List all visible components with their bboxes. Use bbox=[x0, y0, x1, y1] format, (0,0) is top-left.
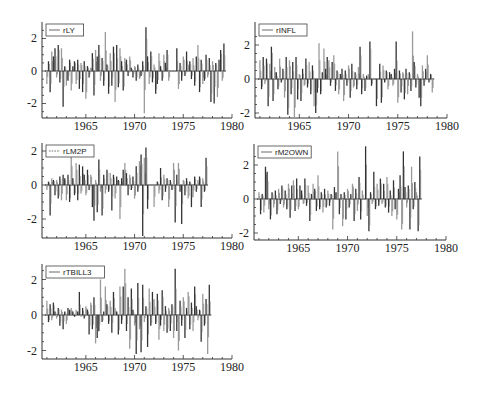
legend: rM2OWN bbox=[258, 146, 311, 158]
y-tick-label: 2 bbox=[31, 273, 37, 287]
x-tick-label: 1975 bbox=[386, 119, 410, 133]
x-tick-label: 1970 bbox=[337, 119, 361, 133]
x-tick-label: 1965 bbox=[287, 119, 311, 133]
legend-label: rLM2P bbox=[63, 147, 87, 156]
legend: rLY bbox=[46, 24, 84, 36]
panel-rtbill3: 20-21965197019751980rTBILL3 bbox=[27, 264, 244, 374]
y-tick-label: -2 bbox=[27, 212, 37, 226]
y-tick-label: 2 bbox=[31, 144, 37, 158]
y-tick-label: -2 bbox=[27, 344, 37, 358]
x-tick-label: 1970 bbox=[123, 239, 147, 253]
legend: rTBILL3 bbox=[46, 266, 104, 278]
y-tick-label: -2 bbox=[27, 96, 37, 110]
x-tick-label: 1975 bbox=[171, 239, 195, 253]
figure: 20-21965197019751980rLY 20-2196519701975… bbox=[0, 0, 486, 395]
panel-rly: 20-21965197019751980rLY bbox=[27, 22, 244, 133]
panel-rlm2p: 20-21965197019751980rLM2P bbox=[27, 143, 244, 253]
panel-rinfl: 20-21965197019751980rINFL bbox=[240, 22, 459, 133]
y-tick-label: 0 bbox=[243, 192, 249, 206]
x-tick-label: 1975 bbox=[171, 119, 195, 133]
legend-label: rTBILL3 bbox=[63, 268, 92, 277]
x-tick-label: 1980 bbox=[434, 241, 458, 255]
x-tick-label: 1965 bbox=[74, 239, 98, 253]
y-tick-label: 2 bbox=[31, 31, 37, 45]
x-tick-label: 1980 bbox=[220, 239, 244, 253]
y-tick-label: 0 bbox=[31, 178, 37, 192]
y-tick-label: 2 bbox=[244, 38, 250, 52]
y-tick-label: 0 bbox=[244, 72, 250, 86]
x-tick-label: 1980 bbox=[435, 119, 459, 133]
x-tick-label: 1975 bbox=[385, 241, 409, 255]
legend: rINFL bbox=[259, 24, 307, 36]
x-tick-label: 1965 bbox=[74, 119, 98, 133]
x-tick-label: 1975 bbox=[171, 360, 195, 374]
y-tick-label: 2 bbox=[243, 158, 249, 172]
panel-rm2own: 20-21965197019751980rM2OWN bbox=[239, 144, 458, 255]
x-tick-label: 1970 bbox=[123, 360, 147, 374]
legend-label: rINFL bbox=[276, 26, 297, 35]
legend: rLM2P bbox=[46, 145, 94, 157]
x-tick-label: 1980 bbox=[220, 360, 244, 374]
x-tick-label: 1980 bbox=[220, 119, 244, 133]
legend-label: rM2OWN bbox=[275, 148, 309, 157]
x-tick-label: 1965 bbox=[286, 241, 310, 255]
x-tick-label: 1965 bbox=[74, 360, 98, 374]
x-tick-label: 1970 bbox=[336, 241, 360, 255]
y-tick-label: -2 bbox=[240, 106, 250, 120]
y-tick-label: 0 bbox=[31, 64, 37, 78]
y-tick-label: -2 bbox=[239, 226, 249, 240]
y-tick-label: 0 bbox=[31, 308, 37, 322]
x-tick-label: 1970 bbox=[123, 119, 147, 133]
legend-label: rLY bbox=[63, 26, 76, 35]
